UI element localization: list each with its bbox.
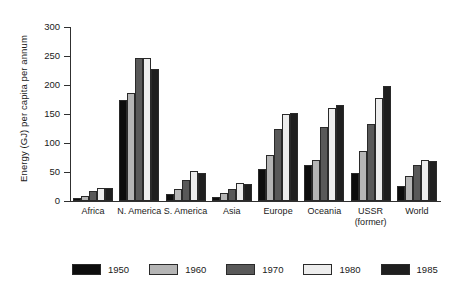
y-tick-label: 100	[28, 138, 60, 148]
legend-swatch	[149, 264, 178, 275]
bar	[429, 161, 437, 201]
legend-label: 1985	[417, 264, 438, 275]
y-tick-label-wrap: 100	[24, 138, 60, 148]
x-axis-line	[70, 201, 441, 202]
bar	[351, 173, 359, 201]
legend-label: 1950	[108, 264, 129, 275]
legend-label: 1960	[185, 264, 206, 275]
bar	[127, 93, 135, 201]
bar	[367, 124, 375, 201]
bar	[105, 188, 113, 201]
legend-swatch	[72, 264, 101, 275]
bar	[312, 160, 320, 201]
bar	[73, 198, 81, 201]
y-tick-label: 50	[28, 167, 60, 177]
bar	[174, 189, 182, 201]
bar	[413, 165, 421, 201]
y-tick-label: 150	[28, 109, 60, 119]
bar-group	[397, 27, 437, 201]
bar	[89, 191, 97, 201]
y-tick-label-wrap: 50	[24, 167, 60, 177]
bar	[383, 86, 391, 201]
bar	[421, 160, 429, 201]
x-category-label: World	[377, 206, 451, 217]
x-category-label-text: World	[405, 206, 428, 216]
bar	[375, 98, 383, 201]
y-tick-label: 300	[28, 22, 60, 32]
bar-group	[304, 27, 344, 201]
bar-group	[212, 27, 252, 201]
bar-group	[166, 27, 206, 201]
bar	[198, 173, 206, 201]
bar	[405, 176, 413, 201]
bar	[228, 189, 236, 201]
bar	[282, 114, 290, 201]
bar	[336, 105, 344, 201]
y-tick-label-wrap: 0	[24, 196, 60, 206]
bar	[304, 165, 312, 201]
bar	[359, 151, 367, 201]
y-tick-label-wrap: 150	[24, 109, 60, 119]
bar	[320, 127, 328, 201]
bar	[266, 155, 274, 201]
bar	[97, 188, 105, 201]
bar-group	[258, 27, 298, 201]
y-tick-label-wrap: 250	[24, 51, 60, 61]
legend-label: 1970	[262, 264, 283, 275]
bar	[182, 180, 190, 201]
bar-group	[73, 27, 113, 201]
bar	[119, 100, 127, 201]
bar	[151, 69, 159, 201]
legend-swatch	[303, 264, 332, 275]
plot-area	[70, 27, 440, 201]
chart-legend: 19501960197019801985	[72, 264, 451, 275]
bar-group	[119, 27, 159, 201]
bar	[166, 194, 174, 201]
legend-entry: 1950	[72, 264, 129, 275]
bar	[290, 113, 298, 201]
bar-group	[351, 27, 391, 201]
legend-entry: 1970	[226, 264, 283, 275]
y-tick-label-wrap: 200	[24, 80, 60, 90]
legend-entry: 1985	[381, 264, 438, 275]
y-tick-label: 200	[28, 80, 60, 90]
legend-label: 1980	[339, 264, 360, 275]
bar	[328, 108, 336, 201]
bar	[143, 58, 151, 201]
bar	[190, 171, 198, 201]
bar	[397, 186, 405, 201]
x-category-label-subtext: (former)	[331, 217, 411, 228]
bar-chart-figure: Energy (GJ) per capita per annum 0501001…	[0, 0, 451, 292]
bar	[81, 196, 89, 201]
bar	[220, 193, 228, 201]
bar	[236, 183, 244, 201]
bar	[135, 58, 143, 201]
legend-entry: 1980	[303, 264, 360, 275]
y-tick-label: 0	[28, 196, 60, 206]
legend-swatch	[381, 264, 410, 275]
bar	[274, 129, 282, 201]
legend-entry: 1960	[149, 264, 206, 275]
bar	[258, 169, 266, 201]
y-tick-label: 250	[28, 51, 60, 61]
bar	[212, 197, 220, 201]
y-tick-label-wrap: 300	[24, 22, 60, 32]
legend-swatch	[226, 264, 255, 275]
bar	[244, 184, 252, 201]
